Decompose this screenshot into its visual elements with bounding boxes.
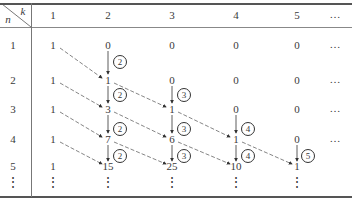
vdots-n: ⋮ xyxy=(6,176,20,190)
row-label-1: 1 xyxy=(10,40,16,51)
row-label-2: 2 xyxy=(10,75,16,86)
cell-4-3: 6 xyxy=(169,134,175,145)
multiplier-circle: 2 xyxy=(113,122,127,136)
cell-2-1: 1 xyxy=(50,75,56,86)
vdots-k3: ⋮ xyxy=(165,176,179,190)
multiplier-circle: 3 xyxy=(177,149,191,163)
cell-1-2: 0 xyxy=(105,40,111,51)
cell-2-3: 0 xyxy=(169,75,175,86)
cell-4-4: 1 xyxy=(233,134,239,145)
cell-5-3: 25 xyxy=(167,161,178,172)
multiplier-circle: 3 xyxy=(177,88,191,102)
row-2-ellipsis: … xyxy=(330,74,341,85)
col-header-3: 3 xyxy=(169,10,175,21)
cell-2-2: 1 xyxy=(105,75,111,86)
multiplier-circle: 5 xyxy=(301,149,315,163)
arrows-layer xyxy=(0,0,352,203)
cell-1-1: 1 xyxy=(50,40,56,51)
row-1-ellipsis: … xyxy=(330,39,341,50)
row-3-ellipsis: … xyxy=(330,103,341,114)
corner-n-label: n xyxy=(5,14,11,25)
vdots-k2: ⋮ xyxy=(101,176,115,190)
col-header-2: 2 xyxy=(105,10,111,21)
col-header-4: 4 xyxy=(233,10,239,21)
col-header-ellipsis: … xyxy=(330,9,341,20)
row-label-4: 4 xyxy=(10,134,16,145)
multiplier-circle: 4 xyxy=(241,122,255,136)
cell-5-1: 1 xyxy=(50,161,56,172)
col-header-5: 5 xyxy=(294,10,300,21)
multiplier-circle: 2 xyxy=(113,88,127,102)
cell-2-4: 0 xyxy=(233,75,239,86)
cell-4-1: 1 xyxy=(50,134,56,145)
vdots-k1: ⋮ xyxy=(46,176,60,190)
multiplier-circle: 2 xyxy=(113,149,127,163)
cell-5-5: 1 xyxy=(294,161,300,172)
multiplier-circle: 4 xyxy=(241,149,255,163)
cell-5-2: 15 xyxy=(103,161,114,172)
multiplier-circle: 2 xyxy=(113,55,127,69)
row-label-5: 5 xyxy=(10,161,16,172)
col-header-1: 1 xyxy=(50,10,56,21)
cell-3-3: 1 xyxy=(169,104,175,115)
cell-1-5: 0 xyxy=(294,40,300,51)
row-4-ellipsis: … xyxy=(330,133,341,144)
multiplier-circle: 3 xyxy=(177,122,191,136)
cell-3-2: 3 xyxy=(105,104,111,115)
corner-k-label: k xyxy=(21,6,26,17)
cell-3-5: 0 xyxy=(294,104,300,115)
row-label-3: 3 xyxy=(10,104,16,115)
cell-3-1: 1 xyxy=(50,104,56,115)
cell-2-5: 0 xyxy=(294,75,300,86)
cell-1-3: 0 xyxy=(169,40,175,51)
cell-5-4: 10 xyxy=(231,161,242,172)
vdots-k5: ⋮ xyxy=(290,176,304,190)
cell-4-5: 0 xyxy=(294,134,300,145)
stirling-table: k n 1 2 3 4 5 … 1 1 0 0 0 0 … 2 1 1 0 0 … xyxy=(0,0,352,203)
cell-4-2: 7 xyxy=(105,134,111,145)
vdots-k4: ⋮ xyxy=(229,176,243,190)
cell-3-4: 0 xyxy=(233,104,239,115)
cell-1-4: 0 xyxy=(233,40,239,51)
